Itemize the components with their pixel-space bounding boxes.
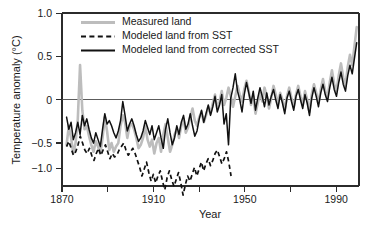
y-tick-label-neg1p0: −1.0 [31,162,52,174]
x-tick-label-1990: 1990 [325,193,349,205]
y-axis-ticks [56,13,62,168]
x-tick-label-1950: 1950 [233,193,257,205]
chart-canvas: 1.0 0.5 0 −0.5 −1.0 1870 1910 1950 1990 … [0,0,381,225]
x-tick-label-1910: 1910 [142,193,166,205]
legend-label-measured: Measured land [122,15,192,27]
legend-label-modeled-sst: Modeled land from SST [122,29,233,41]
x-tick-label-1870: 1870 [50,193,74,205]
series-modeled-land-from-corrected-sst [67,43,357,149]
y-tick-label-1p0: 1.0 [37,7,52,19]
x-axis-title: Year [199,208,222,220]
x-axis-ticks [62,186,336,192]
temperature-anomaly-chart: 1.0 0.5 0 −0.5 −1.0 1870 1910 1950 1990 … [0,0,381,225]
legend: Measured land Modeled land from SST Mode… [81,15,280,55]
y-tick-label-0: 0 [46,94,52,106]
y-tick-label-neg0p5: −0.5 [31,137,52,149]
legend-label-modeled-corrected: Modeled land from corrected SST [122,43,280,55]
y-axis-title: Temperature anomaly (°C) [10,35,22,164]
y-tick-label-0p5: 0.5 [37,50,52,62]
